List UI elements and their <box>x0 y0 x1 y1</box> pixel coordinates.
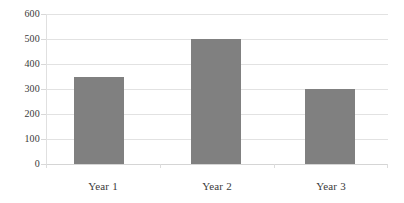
y-axis-tick-label: 100 <box>0 134 40 144</box>
y-axis-tick-label: 300 <box>0 84 40 94</box>
x-axis-tick-mark <box>46 164 47 168</box>
x-axis-tick-mark <box>274 164 275 168</box>
plot-area <box>46 14 388 164</box>
x-axis-tick-mark <box>387 164 388 168</box>
y-axis-tick-label: 400 <box>0 59 40 69</box>
gridline-600 <box>46 14 388 15</box>
y-axis-tick-label: 200 <box>0 109 40 119</box>
x-axis-label-year-2: Year 2 <box>160 180 274 192</box>
x-axis-label-year-1: Year 1 <box>46 180 160 192</box>
bar-chart: 600 500 400 300 200 100 0 Year 1 Year 2 … <box>0 0 404 203</box>
y-axis-tick-label: 600 <box>0 9 40 19</box>
bar-year-3[interactable] <box>305 89 355 164</box>
y-axis-tick-label: 500 <box>0 34 40 44</box>
y-axis-tick-label: 0 <box>0 159 40 169</box>
y-axis-labels: 600 500 400 300 200 100 0 <box>0 0 40 203</box>
bar-year-2[interactable] <box>191 39 241 164</box>
x-axis-label-year-3: Year 3 <box>274 180 388 192</box>
gridline-baseline-0 <box>46 164 388 165</box>
bar-year-1[interactable] <box>74 77 124 165</box>
x-axis-tick-mark <box>160 164 161 168</box>
